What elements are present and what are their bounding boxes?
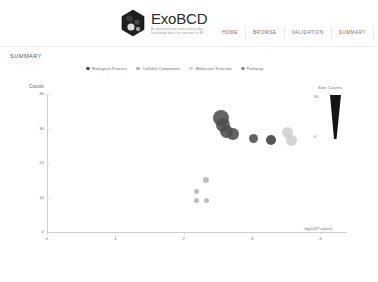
x-tick-mark bbox=[115, 232, 116, 234]
nav-summary[interactable]: SUMMARY bbox=[331, 27, 373, 38]
chart-legend: Biological ProcessCellular ComponentMole… bbox=[86, 66, 263, 71]
legend-item-3[interactable]: Pathway bbox=[241, 66, 264, 71]
data-point[interactable] bbox=[203, 177, 209, 183]
summary-page: ExoBCD A comprehensive and cutting-edge … bbox=[0, 0, 378, 282]
data-point[interactable] bbox=[286, 135, 297, 146]
legend-swatch-icon bbox=[136, 67, 140, 71]
nav-validation[interactable]: VALIDATION bbox=[284, 27, 331, 38]
data-point[interactable] bbox=[249, 134, 258, 143]
size-legend-title: Size Counts bbox=[318, 85, 342, 90]
legend-label: Cellular Component bbox=[142, 66, 180, 71]
x-tick-mark bbox=[252, 232, 253, 234]
y-tick-mark bbox=[47, 198, 49, 199]
size-legend-max: 50 bbox=[314, 94, 318, 99]
x-tick-mark bbox=[184, 232, 185, 234]
y-tick-mark bbox=[47, 163, 49, 164]
legend-item-1[interactable]: Cellular Component bbox=[136, 66, 180, 71]
x-tick-label: 4 bbox=[319, 236, 321, 241]
y-axis-title: Counts bbox=[29, 84, 44, 89]
data-point[interactable] bbox=[204, 198, 209, 203]
legend-label: Pathway bbox=[247, 66, 263, 71]
y-tick-mark bbox=[47, 129, 49, 130]
x-tick-label: 2 bbox=[183, 236, 185, 241]
size-legend: Size Counts 50 0 bbox=[306, 85, 372, 143]
size-legend-min: 0 bbox=[314, 134, 316, 139]
legend-item-0[interactable]: Biological Process bbox=[86, 66, 127, 71]
hexagon-logo-icon bbox=[120, 9, 146, 37]
x-axis-line bbox=[47, 232, 347, 233]
y-tick-label: 20 bbox=[26, 160, 44, 165]
x-tick-mark bbox=[47, 232, 48, 234]
site-header: ExoBCD A comprehensive and cutting-edge … bbox=[0, 0, 378, 47]
x-tick-label: 0 bbox=[46, 236, 48, 241]
x-tick-label: 3 bbox=[251, 236, 253, 241]
y-tick-label: 30 bbox=[26, 126, 44, 131]
size-legend-wedge bbox=[328, 95, 344, 139]
legend-swatch-icon bbox=[189, 67, 193, 71]
nav-home[interactable]: HOME bbox=[215, 27, 245, 38]
legend-swatch-icon bbox=[241, 67, 245, 71]
data-point[interactable] bbox=[227, 128, 239, 140]
data-point[interactable] bbox=[194, 198, 199, 203]
legend-label: Molecular Function bbox=[196, 66, 232, 71]
y-tick-label: 40 bbox=[26, 91, 44, 96]
brand[interactable]: ExoBCD A comprehensive and cutting-edge … bbox=[120, 9, 207, 37]
brand-title: ExoBCD bbox=[151, 11, 207, 27]
nav-browse[interactable]: BROWSE bbox=[245, 27, 284, 38]
data-point[interactable] bbox=[194, 189, 199, 194]
x-tick-mark bbox=[320, 232, 321, 234]
y-tick-mark bbox=[47, 94, 49, 95]
brand-text: ExoBCD A comprehensive and cutting-edge … bbox=[151, 11, 207, 36]
x-tick-label: 1 bbox=[114, 236, 116, 241]
page-title: SUMMARY bbox=[10, 53, 42, 59]
y-tick-label: 10 bbox=[26, 195, 44, 200]
legend-swatch-icon bbox=[86, 67, 90, 71]
legend-item-2[interactable]: Molecular Function bbox=[189, 66, 231, 71]
legend-label: Biological Process bbox=[92, 66, 127, 71]
x-axis-title: -log10(P value) bbox=[303, 226, 332, 231]
brand-subtitle-line-2: knowledge base for exosome in BC bbox=[151, 31, 207, 35]
main-nav: HOME BROWSE VALIDATION SUMMARY DOWNLOAD bbox=[215, 27, 378, 38]
y-tick-label: 0 bbox=[26, 229, 44, 234]
data-point[interactable] bbox=[266, 135, 276, 145]
nav-download[interactable]: DOWNLOAD bbox=[373, 27, 378, 38]
